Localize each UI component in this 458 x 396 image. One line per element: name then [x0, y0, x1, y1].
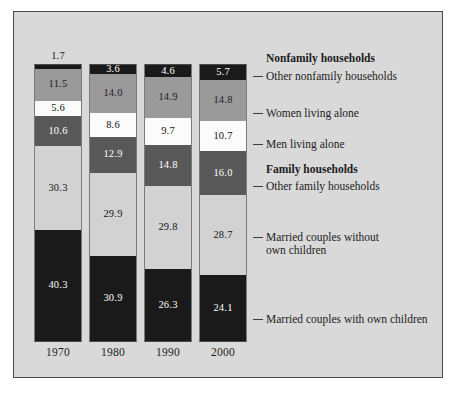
segment-value-label: 30.3: [48, 183, 67, 194]
segment-value-label: 30.9: [103, 293, 122, 304]
segment-value-label: 11.5: [49, 79, 68, 90]
segment-value-label: 5.6: [51, 103, 65, 114]
segment-value-label: 8.6: [106, 120, 120, 131]
segment-value-label: 14.8: [213, 95, 232, 106]
segment-value-label: 24.1: [213, 303, 232, 314]
legend-leader-line: [253, 237, 263, 238]
legend-label: Married couples with own children: [266, 313, 428, 326]
bar-segment: 10.6: [34, 116, 82, 145]
legend-leader-line: [253, 144, 263, 145]
segment-value-label: 12.9: [103, 149, 122, 160]
x-axis-tick-1980: 1980: [89, 346, 137, 358]
segment-value-label: 14.9: [158, 92, 177, 103]
bar-segment: 14.8: [199, 80, 247, 121]
x-axis-tick-1970: 1970: [34, 346, 82, 358]
bar-segment: 4.6: [144, 64, 192, 77]
legend-label: Married couples without own children: [266, 231, 379, 257]
x-axis-tick-2000: 2000: [199, 346, 247, 358]
bar-segment: 11.5: [34, 69, 82, 101]
legend-label: Men living alone: [266, 138, 345, 151]
segment-value-label: 5.7: [216, 67, 230, 78]
segment-value-label: 28.7: [213, 230, 232, 241]
bar-segment: 29.9: [89, 173, 137, 256]
bar-segment: 5.6: [34, 101, 82, 117]
segment-value-label: 1.7: [51, 51, 65, 62]
legend-label: Other family households: [266, 180, 380, 193]
legend-group-header: Family households: [266, 163, 358, 176]
x-axis-tick-1990: 1990: [144, 346, 192, 358]
bar-1990: 4.614.99.714.829.826.3: [144, 64, 192, 342]
bar-segment: 30.9: [89, 256, 137, 342]
bar-segment: 10.7: [199, 121, 247, 151]
bar-segment: 14.0: [89, 74, 137, 113]
legend-label: Women living alone: [266, 107, 359, 120]
legend-group-header: Nonfamily households: [266, 52, 375, 65]
segment-value-label: 4.6: [161, 66, 175, 77]
bar-segment: 16.0: [199, 151, 247, 195]
bar-segment: 9.7: [144, 118, 192, 145]
bar-1970: 1.711.55.610.630.340.3: [34, 64, 82, 342]
bar-2000: 5.714.810.716.028.724.1: [199, 64, 247, 342]
bar-segment: 14.8: [144, 145, 192, 186]
bar-1980: 3.614.08.612.929.930.9: [89, 64, 137, 342]
legend-leader-line: [253, 319, 263, 320]
bar-segment: 8.6: [89, 113, 137, 137]
segment-value-label: 14.8: [158, 160, 177, 171]
bar-segment: 28.7: [199, 195, 247, 275]
segment-value-label: 16.0: [213, 168, 232, 179]
segment-value-label: 26.3: [158, 300, 177, 311]
bar-segment: 3.6: [89, 64, 137, 74]
legend-leader-line: [253, 113, 263, 114]
bar-segment: 5.7: [199, 64, 247, 80]
segment-value-label: 29.8: [158, 222, 177, 233]
segment-value-label: 29.9: [103, 209, 122, 220]
bar-segment: 24.1: [199, 275, 247, 342]
segment-value-label: 40.3: [48, 280, 67, 291]
segment-value-label: 10.7: [213, 131, 232, 142]
chart-figure-panel: 1.711.55.610.630.340.319703.614.08.612.9…: [13, 11, 443, 378]
bar-segment: 12.9: [89, 137, 137, 173]
bar-segment: 30.3: [34, 146, 82, 230]
stacked-bar-chart-plot: 1.711.55.610.630.340.319703.614.08.612.9…: [14, 12, 442, 377]
legend-leader-line: [253, 76, 263, 77]
segment-value-label: 14.0: [103, 88, 122, 99]
segment-value-label: 10.6: [48, 126, 67, 137]
segment-value-label: 9.7: [161, 126, 175, 137]
legend-label: Other nonfamily households: [266, 70, 397, 83]
legend-leader-line: [253, 186, 263, 187]
bar-segment: 40.3: [34, 230, 82, 342]
bar-segment: 29.8: [144, 186, 192, 269]
bar-segment: 14.9: [144, 77, 192, 118]
bar-segment: 26.3: [144, 269, 192, 342]
